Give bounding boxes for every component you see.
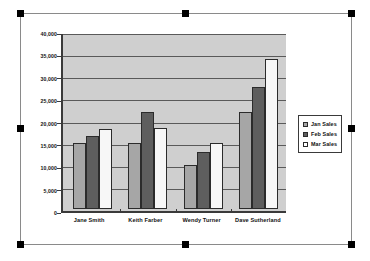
x-axis-category-label: Dave Sutherland: [230, 217, 286, 223]
y-axis-tick-mark: [57, 123, 61, 124]
selection-handle-middle-left[interactable]: [17, 125, 24, 132]
bar-groups: [65, 34, 286, 209]
y-axis-tick-mark: [57, 78, 61, 79]
y-axis-tick-mark: [57, 101, 61, 102]
x-axis-tick-mark: [176, 209, 177, 213]
legend-item-label: Feb Sales: [311, 131, 337, 137]
bar[interactable]: [184, 165, 197, 209]
selection-handle-top-center[interactable]: [182, 10, 189, 17]
y-axis-tick-label: 5,000: [44, 188, 57, 194]
y-axis-tick-mark: [57, 168, 61, 169]
bar-group: [231, 34, 286, 209]
selection-handle-bottom-center[interactable]: [182, 241, 189, 248]
y-axis-tick-label: 10,000: [41, 165, 57, 171]
y-axis-tick-label: 40,000: [41, 31, 57, 37]
selection-handle-bottom-right[interactable]: [348, 241, 355, 248]
plot-area[interactable]: [61, 34, 286, 213]
bar-group: [176, 34, 231, 209]
bar[interactable]: [252, 87, 265, 209]
legend-item[interactable]: Mar Sales: [303, 139, 337, 149]
bar[interactable]: [141, 112, 154, 209]
y-axis-tick-mark: [57, 56, 61, 57]
bar[interactable]: [239, 112, 252, 209]
x-axis-category-label: Wendy Turner: [174, 217, 230, 223]
legend-swatch-icon: [303, 142, 308, 147]
plot-wrapper: 05,00010,00015,00020,00025,00030,00035,0…: [61, 34, 286, 213]
selection-handle-bottom-left[interactable]: [17, 241, 24, 248]
legend-item[interactable]: Feb Sales: [303, 129, 337, 139]
y-axis-tick-label: 20,000: [41, 121, 57, 127]
legend-item[interactable]: Jan Sales: [303, 119, 337, 129]
selection-handle-top-right[interactable]: [348, 10, 355, 17]
bar[interactable]: [86, 136, 99, 209]
x-axis-tick-mark: [120, 209, 121, 213]
selection-handle-middle-right[interactable]: [348, 125, 355, 132]
bar[interactable]: [265, 59, 278, 209]
y-axis-tick-mark: [57, 34, 61, 35]
y-axis-tick-label: 35,000: [41, 53, 57, 59]
bar[interactable]: [128, 143, 141, 209]
x-axis-category-label: Jane Smith: [61, 217, 117, 223]
y-axis-tick-mark: [57, 213, 61, 214]
x-axis-category-label: Keith Farber: [117, 217, 173, 223]
selection-handle-top-left[interactable]: [17, 10, 24, 17]
chart-object[interactable]: 05,00010,00015,00020,00025,00030,00035,0…: [20, 13, 352, 245]
y-axis-tick-label: 25,000: [41, 98, 57, 104]
bar[interactable]: [210, 143, 223, 209]
x-axis-labels: Jane SmithKeith FarberWendy TurnerDave S…: [61, 217, 286, 223]
bar[interactable]: [154, 128, 167, 209]
x-axis-tick-mark: [231, 209, 232, 213]
bar[interactable]: [99, 129, 112, 209]
bar[interactable]: [73, 143, 86, 209]
legend-item-label: Mar Sales: [311, 141, 337, 147]
chart-legend[interactable]: Jan SalesFeb SalesMar Sales: [298, 115, 342, 153]
legend-swatch-icon: [303, 132, 308, 137]
legend-item-label: Jan Sales: [311, 121, 337, 127]
y-axis-tick-label: 15,000: [41, 143, 57, 149]
y-axis-tick-mark: [57, 145, 61, 146]
bar[interactable]: [197, 152, 210, 209]
bar-group: [65, 34, 120, 209]
bar-group: [120, 34, 175, 209]
legend-swatch-icon: [303, 122, 308, 127]
y-axis-tick-mark: [57, 190, 61, 191]
y-axis-tick-label: 30,000: [41, 76, 57, 82]
